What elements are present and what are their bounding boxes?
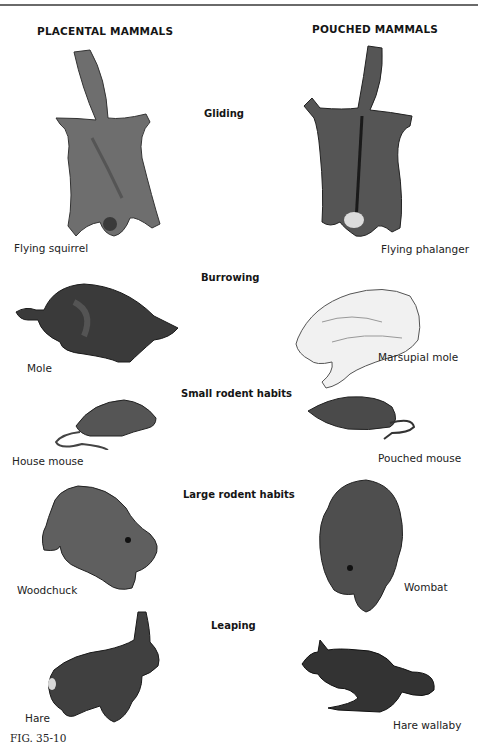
wombat-illustration [316, 478, 406, 618]
habit-small-rodent: Small rodent habits [181, 388, 292, 399]
top-rule [0, 4, 478, 6]
habit-leaping: Leaping [211, 620, 256, 631]
pouched-mouse-illustration [308, 393, 418, 445]
hare-illustration [46, 610, 166, 725]
house-mouse-illustration [52, 396, 160, 450]
pouched-column-header: POUCHED MAMMALS [312, 23, 438, 35]
woodchuck-illustration [38, 484, 164, 594]
flying-squirrel-illustration [52, 48, 168, 238]
label-mole: Mole [27, 362, 52, 374]
habit-burrowing: Burrowing [201, 272, 259, 283]
label-wombat: Wombat [404, 581, 448, 593]
label-marsupial-mole: Marsupial mole [378, 351, 458, 363]
label-woodchuck: Woodchuck [17, 584, 77, 596]
label-hare: Hare [25, 712, 50, 724]
label-flying-phalanger: Flying phalanger [381, 243, 469, 255]
label-pouched-mouse: Pouched mouse [378, 452, 461, 464]
figure-caption: FIG. 35-10 [10, 732, 66, 744]
mole-illustration [14, 282, 182, 368]
habit-large-rodent: Large rodent habits [183, 489, 295, 500]
habit-gliding: Gliding [204, 108, 244, 119]
label-flying-squirrel: Flying squirrel [14, 242, 88, 254]
placental-column-header: PLACENTAL MAMMALS [37, 25, 173, 37]
label-hare-wallaby: Hare wallaby [393, 719, 461, 731]
flying-phalanger-illustration [300, 42, 416, 242]
hare-wallaby-illustration [298, 638, 436, 718]
label-house-mouse: House mouse [12, 455, 83, 467]
marsupial-mole-illustration [292, 282, 426, 394]
